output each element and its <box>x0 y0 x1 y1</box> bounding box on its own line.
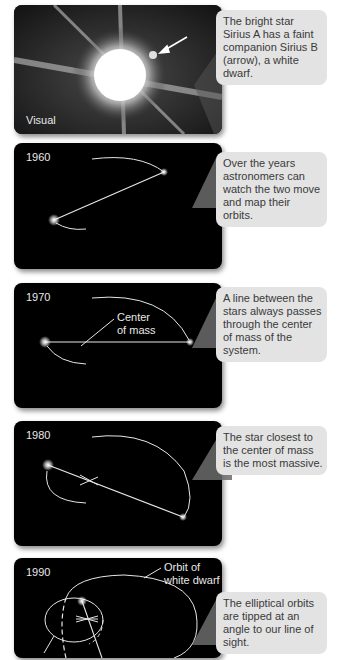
year-label: 1970 <box>26 291 50 303</box>
visual-label: Visual <box>26 114 56 126</box>
callout-1990: The elliptical orbits are tipped at an a… <box>216 592 327 654</box>
callout-visual: The bright star Sirius A has a faint com… <box>216 10 327 85</box>
orbit-arc-dwarf <box>92 158 164 172</box>
year-label: 1980 <box>26 429 50 441</box>
panel-1980: 1980 <box>14 421 222 546</box>
panel-visual: Visual <box>14 5 222 134</box>
year-label: 1990 <box>26 566 50 578</box>
orbit-arc-sirius-a <box>46 471 86 503</box>
sirius-a-star <box>39 336 51 348</box>
panel-1970: 1970 Center of mass <box>14 283 222 408</box>
callout-1970: A line between the stars always passes t… <box>216 287 327 362</box>
callout-1980: The star closest to the center of mass i… <box>216 426 327 475</box>
orbit-ellipse-dwarf-hidden <box>62 598 66 658</box>
connecting-line <box>48 465 183 517</box>
sirius-b-star <box>160 168 168 176</box>
sirius-b-star <box>149 51 157 59</box>
callout-1960: Over the years astronomers can watch the… <box>216 152 327 227</box>
sirius-a-star <box>42 459 54 471</box>
sirius-b-star <box>179 513 187 521</box>
year-label: 1960 <box>26 151 50 163</box>
orbit-arc-sirius-a <box>47 346 86 364</box>
center-of-mass-label-1: Center <box>117 311 150 324</box>
orbit-arc-sirius-a <box>56 223 86 229</box>
center-of-mass-label-2: of mass <box>117 324 156 337</box>
sirius-a-star <box>77 596 87 606</box>
sirius-a-star <box>48 214 60 226</box>
orbit-ellipse-dwarf <box>66 575 197 658</box>
orbit-label-2: white dwarf <box>164 574 220 587</box>
orbit-arc-dwarf <box>92 436 190 517</box>
panel-1960: 1960 <box>14 143 222 269</box>
connecting-line <box>54 172 164 220</box>
center-of-mass-mark <box>80 475 98 485</box>
orbit-label-1: Orbit of <box>164 561 200 574</box>
panel-1990: 1990 Orbit of white dwarf <box>14 558 222 658</box>
orbit-label-pointer <box>144 568 161 578</box>
